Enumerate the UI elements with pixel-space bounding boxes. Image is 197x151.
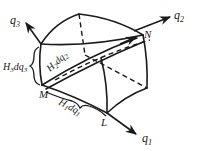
point-m-label: M — [38, 88, 49, 100]
right-vertical-edge — [143, 35, 147, 88]
axis-q2-label: q2 — [174, 8, 184, 24]
top-face-left-edge — [41, 14, 79, 44]
front-vertical-edge — [101, 58, 107, 113]
bottom-right-edge — [107, 88, 147, 113]
axis-q2-arrow — [134, 17, 170, 31]
hidden-edge-back-vertical — [79, 14, 85, 55]
axis-q3-label: q3 — [10, 13, 20, 29]
top-face-back-edge — [79, 14, 143, 35]
point-n-label: N — [143, 28, 152, 40]
edge-q2-line-parallel — [46, 42, 143, 89]
edge-q3-line — [40, 44, 42, 85]
edge-h2dq2-label: H2dq2 — [43, 49, 71, 76]
brace-h3 — [30, 47, 40, 85]
axis-q3-arrow — [26, 23, 41, 44]
volume-element-diagram: q3 q2 q1 N M L H3dq3 H2dq2 H1dq1 — [0, 0, 197, 151]
axis-q1-label: q1 — [142, 131, 152, 147]
edge-h3dq3-label: H3dq3 — [2, 61, 28, 74]
axis-q1-arrow — [107, 113, 136, 134]
point-l-label: L — [100, 116, 107, 128]
